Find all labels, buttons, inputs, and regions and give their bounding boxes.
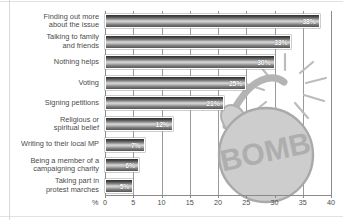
bar-value-label: 6% [125, 162, 135, 169]
bar-row: Religious or spiritual belief12% [0, 114, 343, 135]
bar-value-label: 5% [120, 182, 130, 189]
bar: 30% [105, 55, 275, 69]
bar-row: Finding out more about the issue38% [0, 11, 343, 32]
category-label: Nothing helps [0, 58, 99, 66]
bar: 33% [105, 35, 291, 49]
bar: 12% [105, 117, 173, 131]
x-axis-unit-label: % [92, 198, 98, 207]
bar-value-label: 21% [206, 100, 219, 107]
bar-value-label: 38% [302, 18, 315, 25]
bar-rows: Finding out more about the issue38%Talki… [0, 11, 343, 196]
x-axis-tick [218, 195, 219, 198]
x-axis-tick [303, 195, 304, 198]
x-axis-tick-label: 20 [214, 198, 222, 207]
category-label: Talking to family and friends [0, 33, 99, 50]
bar-row: Voting25% [0, 73, 343, 94]
x-axis-tick-label: 40 [327, 198, 335, 207]
bar-row: Being a member of a campaigning charity6… [0, 155, 343, 176]
category-label: Religious or spiritual belief [0, 116, 99, 133]
x-axis-tick-label: 35 [299, 198, 307, 207]
bar-row: Nothing helps30% [0, 52, 343, 73]
category-label: Finding out more about the issue [0, 13, 99, 30]
x-axis-tick [190, 195, 191, 198]
bar-row: Taking part in protest marches5% [0, 175, 343, 196]
x-axis-tick [105, 195, 106, 198]
bar-value-label: 12% [155, 121, 168, 128]
category-label: Writing to their local MP [0, 140, 99, 148]
bar: 6% [105, 158, 139, 172]
bar-chart: BOMB Finding out more about the issue38%… [0, 0, 343, 220]
bar-container: 30% [105, 55, 275, 69]
bar: 25% [105, 76, 246, 90]
x-axis-tick-label: 15 [186, 198, 194, 207]
bar-value-label: 25% [229, 79, 242, 86]
bar-container: 12% [105, 117, 173, 131]
category-label: Signing petitions [0, 99, 99, 107]
x-axis-tick [162, 195, 163, 198]
bar-container: 7% [105, 138, 145, 152]
bar-value-label: 33% [274, 38, 287, 45]
x-axis-tick-label: 5 [131, 198, 135, 207]
x-axis-tick-label: 25 [242, 198, 250, 207]
x-axis-tick-label: 30 [271, 198, 279, 207]
bar-value-label: 30% [257, 59, 270, 66]
x-axis: % 0510152025303540 [0, 198, 343, 214]
bar-container: 33% [105, 35, 291, 49]
frame-top-divider [0, 1, 343, 2]
bar: 21% [105, 96, 224, 110]
bar-row: Signing petitions21% [0, 93, 343, 114]
bar: 7% [105, 138, 145, 152]
bar: 38% [105, 14, 320, 28]
category-label: Voting [0, 79, 99, 87]
bar-row: Writing to their local MP7% [0, 134, 343, 155]
bar-container: 6% [105, 158, 139, 172]
bar-row: Talking to family and friends33% [0, 32, 343, 53]
bar: 5% [105, 179, 133, 193]
x-axis-tick-label: 0 [103, 198, 107, 207]
frame-bottom-divider [0, 216, 343, 217]
category-label: Being a member of a campaigning charity [0, 157, 99, 174]
x-axis-tick [275, 195, 276, 198]
x-axis-tick [133, 195, 134, 198]
x-axis-tick-label: 10 [158, 198, 166, 207]
x-axis-tick [331, 195, 332, 198]
bar-container: 25% [105, 76, 246, 90]
bar-value-label: 7% [131, 141, 141, 148]
bar-container: 5% [105, 179, 133, 193]
bar-container: 38% [105, 14, 320, 28]
x-axis-tick [246, 195, 247, 198]
category-label: Taking part in protest marches [0, 177, 99, 194]
bar-container: 21% [105, 96, 224, 110]
